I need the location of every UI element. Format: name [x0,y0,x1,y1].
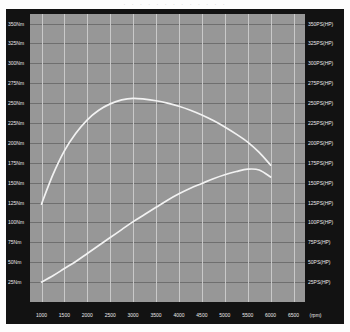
gridline-vertical [64,14,65,302]
gridline-vertical [271,14,272,302]
axis-tick-label: 225Nm [8,120,24,126]
left-axis-torque: 25Nm50Nm75Nm100Nm125Nm150Nm175Nm200Nm225… [6,14,30,302]
gridline-horizontal [30,222,305,223]
axis-tick-label: 3500 [150,312,161,318]
axis-tick-label: 200PS(HP) [308,140,333,146]
chart-frame: 25Nm50Nm75Nm100Nm125Nm150Nm175Nm200Nm225… [6,9,344,324]
axis-tick-label: 125Nm [8,200,24,206]
curve-layer [30,14,305,302]
plot-area [30,14,305,302]
axis-tick-label: 1000 [36,312,47,318]
axis-tick-label: 4000 [173,312,184,318]
axis-tick-label: 275Nm [8,80,24,86]
axis-tick-label: 250PS(HP) [308,100,333,106]
axis-tick-label: 50Nm [8,259,21,265]
axis-tick-label: 325Nm [8,40,24,46]
gridline-horizontal [30,24,305,25]
axis-tick-label: 6500 [288,312,299,318]
cropped-header-text: · · · · · · · · · · · · · [0,0,350,9]
axis-tick-label: 5500 [242,312,253,318]
chart-screenshot: · · · · · · · · · · · · · 25Nm50Nm75Nm10… [0,0,350,332]
axis-tick-label: 325PS(HP) [308,40,333,46]
gridline-horizontal [30,143,305,144]
gridline-vertical [87,14,88,302]
axis-tick-label: 175Nm [8,160,24,166]
bottom-axis-rpm: 1000150020002500300035004000450050005500… [6,304,344,324]
gridline-horizontal [30,203,305,204]
axis-tick-label: 5000 [219,312,230,318]
axis-tick-label: 300Nm [8,60,24,66]
right-axis-power: 25PS(HP)50PS(HP)75PS(HP)100PS(HP)125PS(H… [305,14,344,302]
gridline-horizontal [30,83,305,84]
axis-tick-label: 6000 [265,312,276,318]
axis-tick-label: 275PS(HP) [308,80,333,86]
axis-tick-label: 250Nm [8,100,24,106]
axis-tick-label: 100PS(HP) [308,219,333,225]
gridline-vertical [248,14,249,302]
axis-tick-label: 350Nm [8,21,24,27]
axis-tick-label: 4500 [196,312,207,318]
gridline-horizontal [30,103,305,104]
gridline-vertical [294,14,295,302]
axis-tick-label: 350PS(HP) [308,21,333,27]
gridline-horizontal [30,262,305,263]
axis-tick-label: 75PS(HP) [308,239,331,245]
gridline-horizontal [30,123,305,124]
axis-tick-label: 75Nm [8,239,21,245]
gridline-vertical [156,14,157,302]
axis-tick-label: 125PS(HP) [308,200,333,206]
axis-tick-label: 25PS(HP) [308,279,331,285]
gridline-vertical [110,14,111,302]
axis-tick-label: 150Nm [8,180,24,186]
axis-tick-label: 100Nm [8,219,24,225]
axis-tick-label: 300PS(HP) [308,60,333,66]
axis-tick-label: 2000 [82,312,93,318]
x-axis-unit-label: (rpm) [310,312,322,318]
axis-tick-label: 1500 [59,312,70,318]
axis-tick-label: 150PS(HP) [308,180,333,186]
gridline-vertical [202,14,203,302]
gridline-horizontal [30,163,305,164]
gridline-horizontal [30,242,305,243]
gridline-horizontal [30,63,305,64]
axis-tick-label: 25Nm [8,279,21,285]
gridline-vertical [179,14,180,302]
gridline-horizontal [30,43,305,44]
gridline-vertical [42,14,43,302]
axis-tick-label: 175PS(HP) [308,160,333,166]
axis-tick-label: 200Nm [8,140,24,146]
gridline-vertical [225,14,226,302]
axis-tick-label: 225PS(HP) [308,120,333,126]
gridline-horizontal [30,282,305,283]
gridline-vertical [133,14,134,302]
axis-tick-label: 50PS(HP) [308,259,331,265]
axis-tick-label: 3000 [128,312,139,318]
gridline-horizontal [30,183,305,184]
axis-tick-label: 2500 [105,312,116,318]
